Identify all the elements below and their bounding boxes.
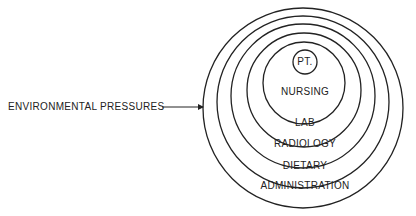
- ring-administration: [203, 8, 403, 208]
- label-pt: PT.: [297, 56, 312, 67]
- label-administration: ADMINISTRATION: [260, 180, 349, 191]
- ring-nursing: [263, 42, 345, 124]
- environmental-pressures-label: ENVIRONMENTAL PRESSURES: [8, 101, 164, 112]
- label-nursing: NURSING: [281, 86, 329, 97]
- label-dietary: DIETARY: [283, 160, 328, 171]
- label-lab: LAB: [295, 117, 315, 128]
- label-radiology: RADIOLOGY: [274, 138, 336, 149]
